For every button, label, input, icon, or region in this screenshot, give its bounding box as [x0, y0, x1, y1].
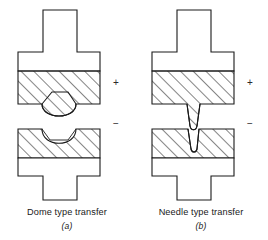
dome-crater-rim-chamfer — [42, 129, 76, 140]
panel-needle-type-transfer: + − Needle type transfer (b) — [134, 0, 268, 240]
dome-caption-title: Dome type transfer — [0, 207, 134, 217]
needle-upper-electrode — [152, 10, 234, 130]
needle-upper-polarity-sign: + — [244, 78, 256, 88]
dome-transfer-drawing — [0, 0, 134, 205]
dome-lower-electrode — [18, 129, 100, 200]
figure-root: + − Dome type transfer (a) — [0, 0, 268, 240]
panel-dome-type-transfer: + − Dome type transfer (a) — [0, 0, 134, 240]
dome-caption-letter: (a) — [0, 221, 134, 231]
needle-transfer-drawing — [134, 0, 268, 205]
needle-upper-electrode-body — [152, 10, 234, 71]
needle-lower-contact-layer — [152, 129, 234, 158]
needle-caption-letter: (b) — [134, 221, 268, 231]
needle-caption-title: Needle type transfer — [134, 207, 268, 217]
needle-lower-electrode-body — [152, 158, 234, 200]
needle-upper-contact-layer — [152, 71, 234, 130]
needle-lower-polarity-sign: − — [244, 119, 256, 129]
dome-upper-electrode — [18, 10, 100, 116]
dome-upper-electrode-body — [18, 10, 100, 71]
dome-lower-contact-layer — [18, 129, 100, 158]
dome-lower-electrode-body — [18, 158, 100, 200]
dome-lower-polarity-sign: − — [110, 119, 122, 129]
needle-lower-electrode — [152, 129, 234, 200]
dome-upper-contact-layer — [18, 71, 100, 116]
dome-upper-polarity-sign: + — [110, 78, 122, 88]
